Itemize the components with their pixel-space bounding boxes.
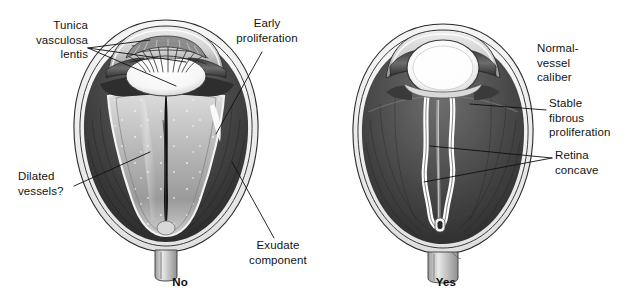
label-tunica-vasculosa-lentis: Tunica vasculosa lentis [14, 18, 88, 62]
label-stable-fibrous-proliferation: Stable fibrous proliferation [549, 96, 626, 140]
label-retina-concave: Retina concave [555, 148, 625, 177]
left-lens [126, 56, 206, 96]
left-optic-disc [157, 221, 175, 235]
label-exudate-component: Exudate component [236, 238, 320, 267]
caption-panel-no: No [158, 276, 202, 288]
eye-comparison-figure: Tunica vasculosa lentis Early proliferat… [0, 0, 626, 297]
right-stalk-core [437, 100, 439, 222]
caption-panel-yes: Yes [424, 276, 468, 288]
right-lens-inner [413, 46, 473, 90]
label-early-proliferation: Early proliferation [224, 16, 310, 45]
label-normal-vessel-caliber: Normal- vessel caliber [537, 41, 621, 85]
right-optic-disc-center [438, 221, 443, 229]
label-dilated-vessels: Dilated vessels? [18, 169, 80, 198]
